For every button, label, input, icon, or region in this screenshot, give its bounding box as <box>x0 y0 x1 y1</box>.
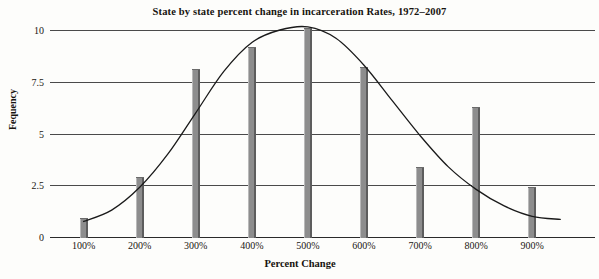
x-tick-label: 600% <box>334 240 394 251</box>
y-tick-label: 5 <box>4 128 44 139</box>
x-tick-label: 300% <box>166 240 226 251</box>
x-tick-label: 400% <box>222 240 282 251</box>
y-tick-label: 0 <box>4 232 44 243</box>
gridline-0 <box>50 237 595 238</box>
chart-container: State by state percent change in incarce… <box>0 0 599 279</box>
x-tick-label: 700% <box>390 240 450 251</box>
y-tick-label: 2.5 <box>4 180 44 191</box>
x-tick-label: 900% <box>502 240 562 251</box>
distribution-curve-path <box>84 26 561 221</box>
y-tick-label: 10 <box>4 25 44 36</box>
x-tick-label: 500% <box>278 240 338 251</box>
y-tick-label: 7.5 <box>4 76 44 87</box>
x-axis-title: Percent Change <box>50 258 550 269</box>
chart-title: State by state percent change in incarce… <box>0 6 599 17</box>
plot-area <box>50 30 595 237</box>
x-tick-label: 100% <box>54 240 114 251</box>
distribution-curve <box>50 30 595 237</box>
x-tick-label: 200% <box>110 240 170 251</box>
x-tick-label: 800% <box>446 240 506 251</box>
x-axis-tick-labels: 100%200%300%400%500%600%700%800%900% <box>50 240 595 256</box>
y-axis-tick-labels: 02.557.510 <box>0 30 44 237</box>
